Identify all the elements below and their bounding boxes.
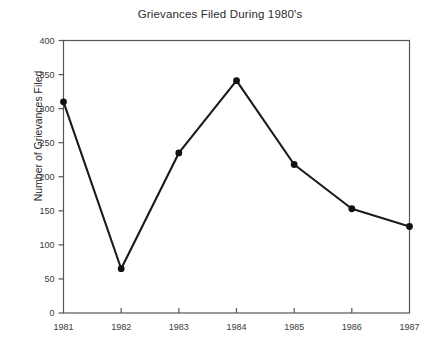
line-chart-plot: 050100150200250300350400 198119821983198… (0, 0, 440, 358)
x-tick-label: 1985 (284, 322, 304, 332)
y-tick-label: 300 (39, 104, 54, 114)
y-tick-label: 400 (39, 36, 54, 46)
y-axis-ticks: 050100150200250300350400 (39, 36, 63, 319)
data-point-marker (175, 150, 182, 157)
y-tick-label: 250 (39, 138, 54, 148)
data-point-marker (118, 265, 125, 272)
x-tick-label: 1984 (226, 322, 246, 332)
y-tick-label: 200 (39, 172, 54, 182)
y-tick-label: 100 (39, 240, 54, 250)
data-point-marker (406, 223, 413, 230)
chart-figure: Grievances Filed During 1980's Number of… (0, 0, 440, 358)
x-tick-label: 1987 (399, 322, 419, 332)
y-tick-label: 50 (44, 274, 54, 284)
x-axis-ticks: 1981198219831984198519861987 (53, 308, 419, 332)
y-tick-label: 150 (39, 206, 54, 216)
data-point-marker (291, 161, 298, 168)
x-tick-label: 1986 (342, 322, 362, 332)
data-point-marker (348, 205, 355, 212)
x-tick-label: 1983 (169, 322, 189, 332)
x-tick-label: 1982 (111, 322, 131, 332)
y-tick-label: 350 (39, 70, 54, 80)
data-line (64, 81, 410, 269)
x-tick-label: 1981 (53, 322, 73, 332)
y-tick-label: 0 (49, 308, 54, 318)
data-point-marker (233, 77, 240, 84)
data-point-marker (60, 98, 67, 105)
